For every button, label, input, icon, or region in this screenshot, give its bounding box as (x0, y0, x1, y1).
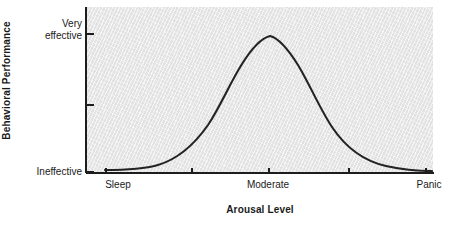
y-axis-label-ineffective: Ineffective (0, 166, 82, 178)
y-axis-tick-very-effective (87, 33, 94, 35)
yerkes-dodson-chart: Behavioral Performance Very effective In… (0, 0, 463, 227)
y-axis-label-very-effective-line2: effective (0, 30, 82, 42)
x-axis-label-sleep: Sleep (73, 179, 163, 191)
x-axis-label-panic: Panic (384, 179, 463, 191)
x-axis-tick-moderate (268, 168, 270, 174)
y-axis-tick-ineffective (87, 171, 94, 173)
y-axis-label-very-effective: Very effective (0, 18, 82, 41)
y-axis-label-very-effective-line1: Very (0, 18, 82, 30)
y-axis-tick-middle (87, 104, 94, 106)
x-axis-tick-sleep (105, 168, 107, 174)
x-axis-tick-2 (191, 168, 193, 174)
x-axis-tick-panic (425, 168, 427, 174)
x-axis-line (86, 172, 434, 174)
x-axis-tick-4 (348, 168, 350, 174)
plot-area (86, 7, 433, 172)
performance-curve (86, 7, 433, 172)
x-axis-title: Arousal Level (170, 204, 350, 215)
x-axis-label-moderate: Moderate (223, 179, 313, 191)
y-axis-line (85, 7, 87, 173)
